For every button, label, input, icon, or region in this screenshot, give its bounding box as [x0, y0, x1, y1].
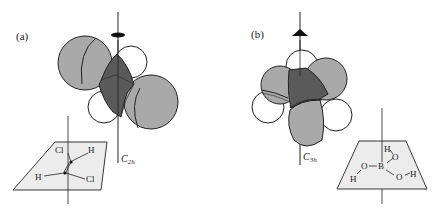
atom-label-h-left: H [350, 174, 357, 184]
atom-label-h-top: H [88, 145, 95, 155]
atom-label-cl-top: Cl [55, 145, 64, 155]
c2h-label: C2h [121, 153, 135, 166]
atom-label-o-top: O [392, 152, 399, 162]
atom-label-o-right: O [396, 172, 403, 182]
panel-a: (a) C2h [13, 12, 178, 204]
c3h-label: C3h [303, 151, 317, 164]
twofold-symbol-icon [111, 33, 125, 38]
atom-label-b-center: B [378, 161, 384, 171]
o-atom-sphere-bottom [289, 99, 324, 146]
atom-label-cl-bottom: Cl [86, 174, 95, 184]
atom-label-h-top: H [384, 144, 391, 154]
atom-label-h-bottom: H [35, 172, 42, 182]
atom-label-h-right: H [410, 169, 417, 179]
panel-b-label: (b) [251, 28, 264, 41]
panel-a-label: (a) [16, 30, 29, 43]
molecular-plane-a: Cl H H Cl [13, 116, 107, 204]
atom-label-o-left: O [361, 161, 368, 171]
h-atom-sphere-right [320, 99, 352, 131]
figure-canvas: (a) C2h [0, 0, 435, 213]
panel-b: (b) C3h [251, 12, 427, 204]
threefold-symbol-icon [292, 29, 308, 36]
